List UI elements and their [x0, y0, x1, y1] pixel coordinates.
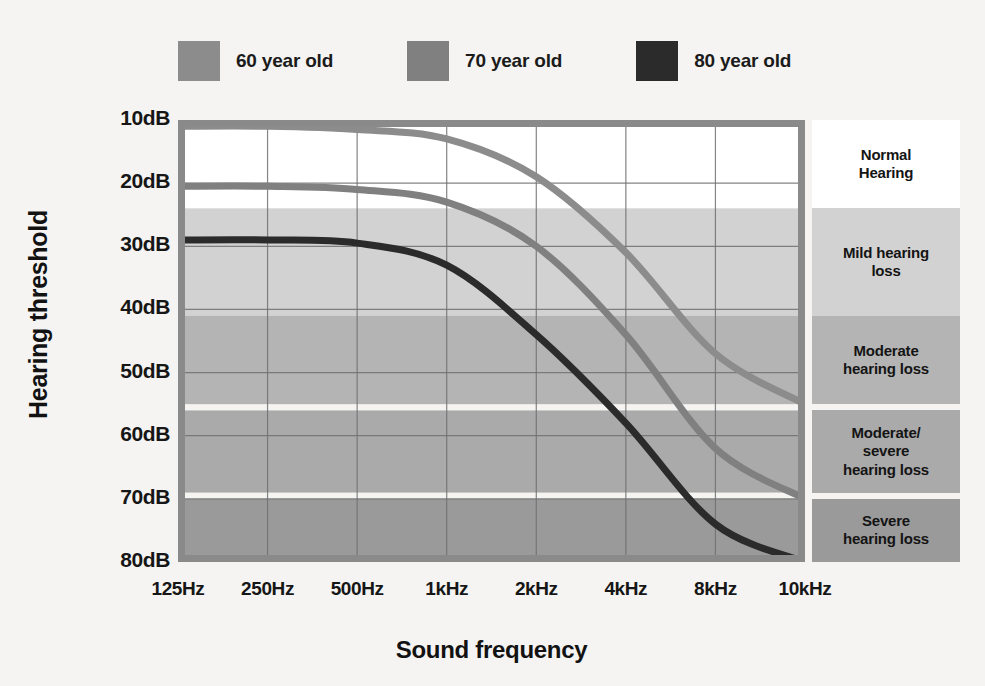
- plot-area: [178, 120, 805, 562]
- plot-band: [178, 316, 805, 404]
- y-tick-label: 60dB: [90, 422, 170, 446]
- y-tick-label: 30dB: [90, 232, 170, 256]
- plot-band: [178, 120, 805, 208]
- band-label-text: Mild hearing loss: [843, 244, 929, 281]
- hearing-loss-band-labels: Normal HearingMild hearing lossModerate …: [812, 0, 972, 686]
- band-label-text: Moderate/ severe hearing loss: [843, 424, 929, 479]
- legend-label-70: 70 year old: [465, 50, 562, 72]
- band-label-text: Severe hearing loss: [843, 512, 929, 549]
- band-label-text: Moderate hearing loss: [843, 342, 929, 379]
- y-tick-label: 80dB: [90, 548, 170, 572]
- legend-swatch-80: [636, 41, 678, 81]
- legend-swatch-70: [407, 41, 449, 81]
- x-axis-title: Sound frequency: [178, 636, 805, 664]
- band-label-text: Normal Hearing: [859, 146, 913, 183]
- chart-legend: 60 year old 70 year old 80 year old: [178, 38, 838, 84]
- plot-svg: [178, 120, 805, 562]
- plot-band: [178, 499, 805, 562]
- band-label-box: Normal Hearing: [812, 120, 960, 208]
- plot-band: [178, 410, 805, 492]
- y-axis-title: Hearing threshold: [24, 165, 53, 465]
- y-tick-label: 70dB: [90, 485, 170, 509]
- legend-item-70: 70 year old: [407, 41, 562, 81]
- legend-label-80: 80 year old: [694, 50, 791, 72]
- y-tick-label: 20dB: [90, 169, 170, 193]
- y-tick-label: 40dB: [90, 295, 170, 319]
- band-label-box: Moderate/ severe hearing loss: [812, 410, 960, 492]
- legend-item-80: 80 year old: [636, 41, 791, 81]
- legend-label-60: 60 year old: [236, 50, 333, 72]
- legend-item-60: 60 year old: [178, 41, 333, 81]
- band-label-box: Moderate hearing loss: [812, 316, 960, 404]
- y-tick-label: 10dB: [90, 106, 170, 130]
- legend-swatch-60: [178, 41, 220, 81]
- band-label-box: Mild hearing loss: [812, 208, 960, 315]
- chart-page: 60 year old 70 year old 80 year old Hear…: [0, 0, 985, 686]
- y-tick-label: 50dB: [90, 359, 170, 383]
- band-label-box: Severe hearing loss: [812, 499, 960, 562]
